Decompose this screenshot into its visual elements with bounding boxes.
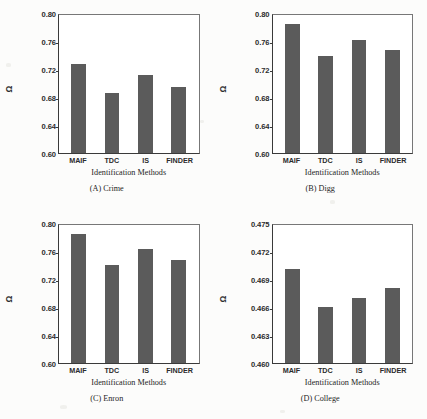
- panel-a-y-tick-1: 0.76: [42, 38, 56, 47]
- bar-tdc: [318, 56, 333, 153]
- panel-a-x-tick-3: FINDER: [163, 156, 197, 165]
- bar-is: [138, 75, 153, 153]
- bar-slot: [342, 15, 375, 153]
- panel-d-x-tick-labels: MAIFTDCISFINDER: [272, 366, 414, 375]
- bar-slot: [162, 225, 195, 363]
- panel-b-y-tickmark-4: [270, 127, 273, 128]
- panel-a-y-tickmark-2: [56, 71, 59, 72]
- panel-c-y-tick-2: 0.72: [42, 275, 56, 284]
- panel-d-y-tick-2: 0.469: [251, 275, 270, 284]
- bar-slot: [376, 225, 409, 363]
- panel-d-college: Ω 0.4750.4720.4690.4660.4630.460 MAIFTDC…: [214, 210, 427, 419]
- panel-c-x-tick-3: FINDER: [163, 366, 197, 375]
- panel-b-y-tick-3: 0.68: [255, 94, 269, 103]
- bar-slot: [62, 15, 95, 153]
- panel-d-x-axis-title: Identification Methods: [272, 378, 414, 387]
- panel-b-x-tick-3: FINDER: [376, 156, 410, 165]
- panel-d-x-tick-0: MAIF: [275, 366, 309, 375]
- bar-is: [138, 249, 153, 362]
- panel-a-caption: (A) Crime: [0, 184, 214, 193]
- panel-b-y-tick-1: 0.76: [255, 38, 269, 47]
- bar-finder: [171, 87, 186, 154]
- bar-is: [352, 298, 367, 362]
- panel-d-y-tick-3: 0.466: [251, 303, 270, 312]
- panel-c-y-tick-labels: 0.800.760.720.680.640.60: [22, 224, 56, 364]
- figure-container: Ω 0.800.760.720.680.640.60 MAIFTDCISFIND…: [0, 0, 427, 419]
- panel-a-y-tick-2: 0.72: [42, 66, 56, 75]
- bar-slot: [95, 225, 128, 363]
- panel-c-y-tick-1: 0.76: [42, 247, 56, 256]
- panel-b-x-tick-0: MAIF: [275, 156, 309, 165]
- panel-c-enron: Ω 0.800.760.720.680.640.60 MAIFTDCISFIND…: [0, 210, 214, 419]
- panel-a-y-tickmark-3: [56, 99, 59, 100]
- panel-c-y-tick-4: 0.64: [42, 331, 56, 340]
- bar-slot: [276, 15, 309, 153]
- panel-b-x-tick-labels: MAIFTDCISFINDER: [272, 156, 414, 165]
- panel-d-y-tick-0: 0.475: [251, 219, 270, 228]
- panel-b-bars: [273, 15, 413, 153]
- panel-b-x-axis-title: Identification Methods: [272, 168, 414, 177]
- panel-c-y-tickmark-2: [56, 281, 59, 282]
- panel-b-plot-area: [272, 14, 414, 154]
- panel-a-x-tick-2: IS: [129, 156, 163, 165]
- panel-a-x-tick-1: TDC: [95, 156, 129, 165]
- bar-slot: [162, 15, 195, 153]
- bar-is: [352, 40, 367, 153]
- panel-b-y-tickmark-3: [270, 99, 273, 100]
- panel-d-y-tick-5: 0.460: [251, 359, 270, 368]
- panel-d-plot-wrap: Ω 0.4750.4720.4690.4660.4630.460: [214, 210, 427, 366]
- panel-c-y-tickmark-3: [56, 309, 59, 310]
- panel-b-y-tick-5: 0.60: [255, 150, 269, 159]
- panel-d-y-tickmark-2: [270, 281, 273, 282]
- bar-maif: [71, 234, 86, 363]
- panel-d-plot-area: [272, 224, 414, 364]
- panel-c-bars: [59, 225, 199, 363]
- panel-c-x-tick-0: MAIF: [61, 366, 95, 375]
- bar-maif: [71, 64, 86, 153]
- panel-a-y-tick-labels: 0.800.760.720.680.640.60: [22, 14, 56, 154]
- panel-d-y-axis-label: Ω: [218, 295, 228, 302]
- panel-c-y-tick-0: 0.80: [42, 219, 56, 228]
- panel-c-x-tick-labels: MAIFTDCISFINDER: [58, 366, 200, 375]
- bar-slot: [62, 225, 95, 363]
- panel-b-x-tick-2: IS: [342, 156, 376, 165]
- bar-maif: [285, 24, 300, 153]
- panel-a-x-tick-0: MAIF: [61, 156, 95, 165]
- panel-c-plot-area: [58, 224, 200, 364]
- panel-a-plot-area: [58, 14, 200, 154]
- panel-c-y-tick-5: 0.60: [42, 359, 56, 368]
- panel-c-y-axis-label: Ω: [4, 295, 14, 302]
- panel-a-x-tick-labels: MAIFTDCISFINDER: [58, 156, 200, 165]
- panel-d-x-tick-1: TDC: [308, 366, 342, 375]
- bar-finder: [385, 288, 400, 363]
- panel-c-y-tick-3: 0.68: [42, 303, 56, 312]
- panel-a-y-tick-5: 0.60: [42, 150, 56, 159]
- bar-tdc: [105, 93, 120, 153]
- panel-c-caption: (C) Enron: [0, 394, 214, 403]
- panel-d-y-tick-4: 0.463: [251, 331, 270, 340]
- panel-d-y-tickmark-1: [270, 253, 273, 254]
- panel-b-y-tickmark-1: [270, 43, 273, 44]
- panel-d-y-tickmark-3: [270, 309, 273, 310]
- bar-slot: [342, 225, 375, 363]
- panel-a-bars: [59, 15, 199, 153]
- bar-finder: [171, 260, 186, 363]
- bar-slot: [309, 15, 342, 153]
- panel-c-y-tickmark-4: [56, 337, 59, 338]
- panel-c-x-tick-2: IS: [129, 366, 163, 375]
- panel-a-y-axis-label: Ω: [4, 86, 14, 93]
- panel-b-x-tick-1: TDC: [308, 156, 342, 165]
- panel-c-plot-wrap: Ω 0.800.760.720.680.640.60: [0, 210, 214, 366]
- panel-c-x-tick-1: TDC: [95, 366, 129, 375]
- bar-tdc: [105, 265, 120, 362]
- bar-slot: [95, 15, 128, 153]
- panel-d-bars: [273, 225, 413, 363]
- bar-slot: [376, 15, 409, 153]
- bar-slot: [309, 225, 342, 363]
- panel-a-y-tickmark-4: [56, 127, 59, 128]
- panel-c-y-tickmark-1: [56, 253, 59, 254]
- panel-d-caption: (D) College: [214, 394, 427, 403]
- panel-b-y-axis-label: Ω: [218, 86, 228, 93]
- panel-d-y-tickmark-4: [270, 337, 273, 338]
- panel-b-y-tick-0: 0.80: [255, 10, 269, 19]
